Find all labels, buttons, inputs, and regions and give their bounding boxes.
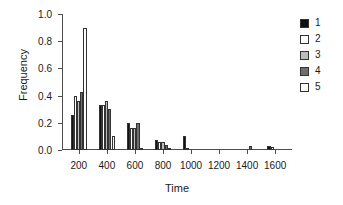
legend-item[interactable]: 4 — [300, 64, 342, 78]
x-tick-label: 200 — [70, 160, 87, 171]
plot-area: 0.00.20.40.60.81.0 200400600800100012001… — [62, 14, 292, 150]
y-tick-label: 0.2 — [38, 117, 52, 128]
bar — [249, 146, 252, 150]
y-tick-label: 0.6 — [38, 63, 52, 74]
legend-item[interactable]: 2 — [300, 32, 342, 46]
x-axis-title: Time — [62, 182, 292, 194]
x-tick-label: 1200 — [208, 160, 230, 171]
y-tick: 0.0 — [58, 150, 62, 151]
x-tick: 400 — [107, 150, 108, 154]
legend-label: 3 — [315, 50, 321, 60]
legend-label: 1 — [315, 18, 321, 28]
x-tick-label: 1600 — [264, 160, 286, 171]
bar — [140, 148, 143, 150]
bar — [83, 28, 86, 150]
x-tick: 1200 — [219, 150, 220, 154]
bar — [136, 123, 139, 150]
bar — [271, 147, 274, 150]
x-tick: 600 — [135, 150, 136, 154]
bar — [186, 148, 189, 150]
legend-swatch-icon — [300, 51, 309, 60]
x-tick: 1400 — [247, 150, 248, 154]
x-tick: 1600 — [275, 150, 276, 154]
legend-swatch-icon — [300, 19, 309, 28]
y-tick-label: 0.8 — [38, 36, 52, 47]
legend-label: 2 — [315, 34, 321, 44]
legend-label: 5 — [315, 82, 321, 92]
legend-swatch-icon — [300, 35, 309, 44]
legend-item[interactable]: 3 — [300, 48, 342, 62]
y-tick-label: 1.0 — [38, 9, 52, 20]
legend-swatch-icon — [300, 67, 309, 76]
x-tick-label: 600 — [127, 160, 144, 171]
x-tick-label: 1000 — [180, 160, 202, 171]
x-tick: 200 — [79, 150, 80, 154]
legend-item[interactable]: 1 — [300, 16, 342, 30]
x-tick-label: 400 — [99, 160, 116, 171]
x-tick-label: 800 — [155, 160, 172, 171]
bar-series-container — [62, 14, 292, 150]
x-tick-label: 1400 — [236, 160, 258, 171]
x-tick: 800 — [163, 150, 164, 154]
y-tick-label: 0.4 — [38, 90, 52, 101]
chart-figure: Frequency 0.00.20.40.60.81.0 20040060080… — [0, 0, 343, 205]
legend-swatch-icon — [300, 83, 309, 92]
legend-label: 4 — [315, 66, 321, 76]
y-tick-label: 0.0 — [38, 145, 52, 156]
bar — [112, 136, 115, 150]
chart-legend: 12345 — [300, 16, 342, 96]
x-tick: 1000 — [191, 150, 192, 154]
legend-item[interactable]: 5 — [300, 80, 342, 94]
bar — [168, 148, 171, 150]
